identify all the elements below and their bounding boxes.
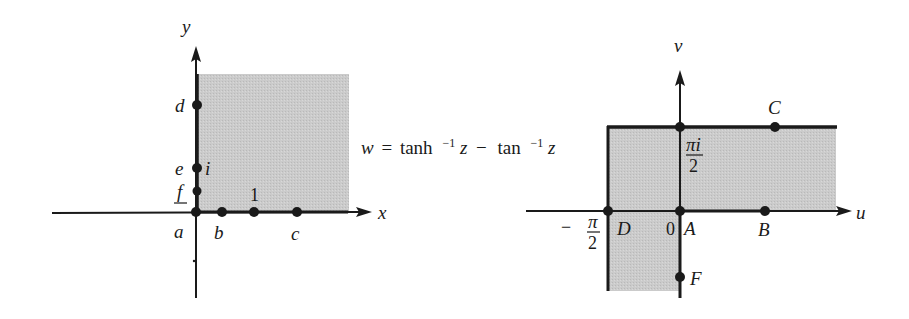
tick-pi-i-denominator: 2	[689, 156, 698, 176]
point-one	[249, 207, 259, 217]
z-plane-shaded-region	[197, 74, 349, 212]
point-b	[217, 207, 227, 217]
x-axis-label: x	[377, 202, 387, 223]
eq-minus: −	[476, 137, 487, 158]
label-origin: 0	[666, 219, 675, 239]
w-plane-diagram: v u C πi 2 − π 2 D 0 A B F	[526, 35, 866, 298]
u-axis-label: u	[856, 202, 866, 223]
eq-z-2: z	[547, 137, 556, 158]
label-i: i	[205, 158, 210, 179]
point-a	[191, 207, 201, 217]
tick-pi-denominator: 2	[588, 233, 597, 253]
eq-sup-2: −1	[531, 136, 544, 150]
eq-equals: =	[381, 137, 392, 158]
label-f: f	[177, 181, 185, 202]
label-a: a	[174, 221, 184, 242]
point-f	[193, 187, 202, 196]
label-b: b	[214, 222, 224, 243]
tick-pi-i-numerator: πi	[686, 134, 701, 155]
point-D	[603, 206, 613, 216]
label-D: D	[616, 218, 631, 239]
eq-tanh: tanh	[400, 137, 433, 158]
label-one: 1	[250, 185, 259, 205]
eq-z-1: z	[459, 137, 468, 158]
label-c: c	[291, 223, 300, 244]
eq-w: w	[361, 137, 374, 158]
label-A: A	[682, 218, 696, 239]
label-B: B	[758, 219, 770, 240]
point-C	[770, 122, 780, 132]
eq-sup-1: −1	[442, 136, 455, 150]
point-A	[675, 206, 685, 216]
point-B	[760, 206, 770, 216]
point-d	[192, 100, 202, 110]
point-F	[675, 272, 685, 282]
v-axis-label: v	[674, 35, 683, 56]
w-plane-shaded-region	[608, 127, 836, 291]
tick-pi-numerator: π	[588, 211, 598, 232]
z-plane-diagram: y x d e i f 1 a b c	[52, 16, 387, 298]
point-pi-i-over-2	[675, 122, 685, 132]
y-axis-label: y	[180, 16, 191, 37]
point-c	[292, 207, 302, 217]
eq-tan: tan	[498, 137, 522, 158]
mapping-equation: w = tanh −1 z − tan −1 z	[361, 130, 556, 158]
label-F: F	[689, 268, 702, 289]
label-C: C	[768, 97, 781, 118]
label-e: e	[175, 158, 183, 179]
tick-neg-sign: −	[561, 217, 571, 237]
label-d: d	[175, 95, 185, 116]
point-e	[192, 163, 202, 173]
svg-text:w = tanh −1: w = tanh −1 z − tan −1 z	[361, 130, 556, 158]
